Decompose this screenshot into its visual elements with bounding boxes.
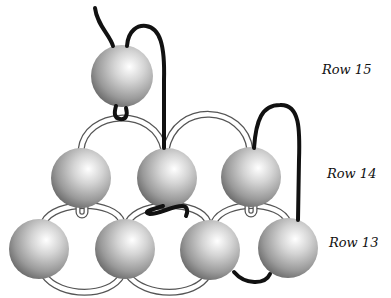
- bead-row13-2: [95, 219, 155, 279]
- label-row-15: Row 15: [322, 62, 371, 77]
- label-row-14: Row 14: [327, 166, 376, 181]
- bead-row14-3: [221, 147, 281, 207]
- bead-row14-2: [137, 148, 197, 208]
- bead-diagram: [0, 0, 391, 298]
- bead-row14-1: [51, 148, 111, 208]
- bead-row13-1: [9, 219, 69, 279]
- bead-row13-4: [258, 218, 318, 278]
- bead-row15-1: [91, 45, 153, 107]
- bead-row13-3: [180, 220, 240, 280]
- label-row-13: Row 13: [329, 235, 378, 250]
